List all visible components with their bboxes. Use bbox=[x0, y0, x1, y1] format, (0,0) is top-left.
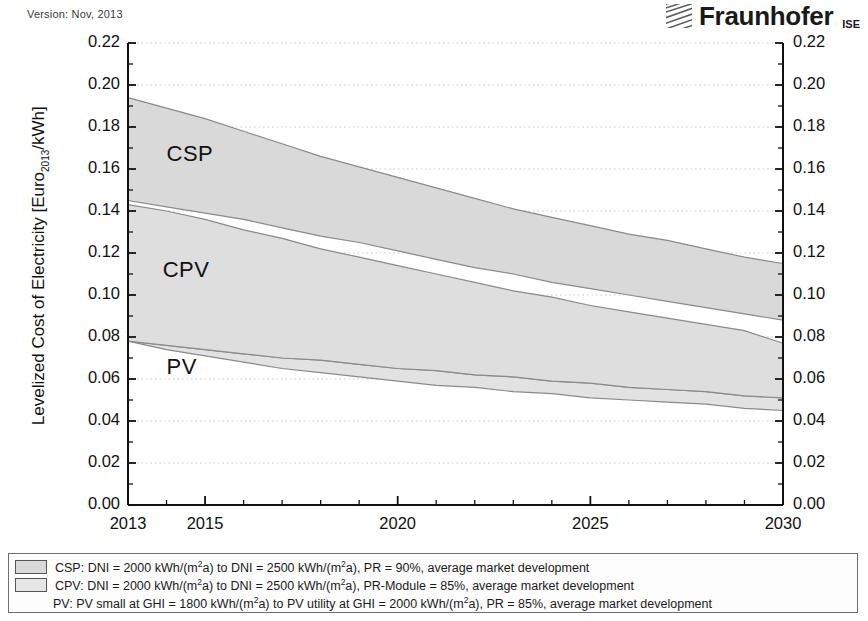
y-tick-label-left: 0.12 bbox=[62, 242, 120, 261]
x-tick-label: 2015 bbox=[187, 514, 224, 533]
x-tick-label: 2030 bbox=[765, 514, 802, 533]
y-tick-label-left: 0.18 bbox=[62, 116, 120, 135]
y-tick-label-right: 0.10 bbox=[793, 284, 851, 303]
band-label-csp: CSP bbox=[167, 141, 214, 167]
y-tick-label-right: 0.14 bbox=[793, 200, 851, 219]
y-tick-label-left: 0.22 bbox=[62, 32, 120, 51]
legend-label-csp: CSP: DNI = 2000 kWh/(m2a) to DNI = 2500 … bbox=[55, 559, 589, 575]
y-tick-label-left: 0.02 bbox=[62, 452, 120, 471]
y-tick-label-right: 0.16 bbox=[793, 158, 851, 177]
y-tick-label-right: 0.00 bbox=[793, 494, 851, 513]
y-tick-label-right: 0.18 bbox=[793, 116, 851, 135]
legend-label-pv: PV: PV small at GHI = 1800 kWh/(m2a) to … bbox=[53, 595, 712, 611]
y-tick-label-left: 0.06 bbox=[62, 368, 120, 387]
legend-row-csp: CSP: DNI = 2000 kWh/(m2a) to DNI = 2500 … bbox=[15, 558, 851, 576]
legend-swatch-cpv bbox=[15, 578, 47, 592]
y-tick-label-left: 0.04 bbox=[62, 410, 120, 429]
y-tick-label-right: 0.04 bbox=[793, 410, 851, 429]
y-tick-label-left: 0.10 bbox=[62, 284, 120, 303]
chart-plot-area bbox=[0, 0, 868, 545]
y-tick-label-left: 0.16 bbox=[62, 158, 120, 177]
legend-row-pv: PV: PV small at GHI = 1800 kWh/(m2a) to … bbox=[15, 594, 851, 612]
y-tick-label-right: 0.08 bbox=[793, 326, 851, 345]
y-tick-label-left: 0.20 bbox=[62, 74, 120, 93]
chart-container: Levelized Cost of Electricity [Euro2013/… bbox=[0, 0, 868, 545]
x-tick-label: 2020 bbox=[379, 514, 416, 533]
legend-label-cpv: CPV: DNI = 2000 kWh/(m2a) to DNI = 2500 … bbox=[55, 577, 634, 593]
y-tick-label-left: 0.14 bbox=[62, 200, 120, 219]
x-tick-label: 2013 bbox=[110, 514, 147, 533]
y-tick-label-right: 0.02 bbox=[793, 452, 851, 471]
y-tick-label-right: 0.20 bbox=[793, 74, 851, 93]
x-tick-label: 2025 bbox=[572, 514, 609, 533]
legend-swatch-csp bbox=[15, 560, 47, 574]
y-tick-label-left: 0.00 bbox=[62, 494, 120, 513]
chart-legend: CSP: DNI = 2000 kWh/(m2a) to DNI = 2500 … bbox=[8, 553, 858, 613]
y-tick-label-left: 0.08 bbox=[62, 326, 120, 345]
y-tick-label-right: 0.06 bbox=[793, 368, 851, 387]
y-tick-label-right: 0.22 bbox=[793, 32, 851, 51]
band-label-cpv: CPV bbox=[163, 257, 210, 283]
y-tick-label-right: 0.12 bbox=[793, 242, 851, 261]
legend-swatch-pv bbox=[15, 597, 45, 609]
legend-row-cpv: CPV: DNI = 2000 kWh/(m2a) to DNI = 2500 … bbox=[15, 576, 851, 594]
band-label-pv: PV bbox=[167, 354, 197, 380]
